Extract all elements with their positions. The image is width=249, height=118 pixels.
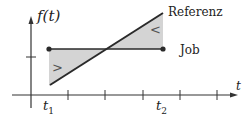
y-axis-arrow-icon: [29, 16, 34, 24]
x-axis-arrow-icon: [230, 93, 238, 98]
less-than-symbol: <: [150, 23, 161, 36]
reference-label: Referenz: [168, 6, 223, 18]
t2-label-subscript: 2: [161, 106, 167, 116]
t2-label: t2: [156, 99, 167, 116]
job-end-dot: [160, 46, 165, 51]
job-label: Job: [180, 44, 200, 56]
job-start-dot: [46, 46, 51, 51]
x-axis-label: t: [236, 80, 241, 92]
t1-label: t1: [43, 99, 54, 116]
greater-than-symbol: >: [52, 61, 63, 74]
y-axis-label: f(t): [37, 9, 60, 24]
t1-label-subscript: 1: [48, 106, 54, 116]
